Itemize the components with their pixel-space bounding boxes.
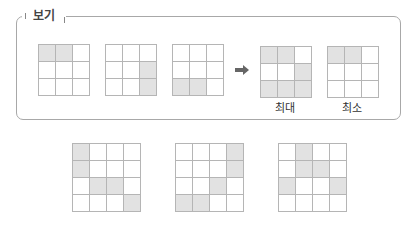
example-grid-2 bbox=[105, 44, 157, 96]
grid-cell bbox=[279, 195, 296, 212]
grid-cell bbox=[296, 178, 313, 195]
grid-cell bbox=[73, 79, 90, 96]
grid-cell bbox=[140, 45, 157, 62]
grid-cell bbox=[107, 195, 124, 212]
grid-cell bbox=[193, 144, 210, 161]
grid-cell bbox=[193, 161, 210, 178]
grid-cell bbox=[313, 144, 330, 161]
shaded-cell bbox=[261, 47, 278, 64]
grid-cell bbox=[295, 47, 312, 64]
shaded-cell bbox=[278, 47, 295, 64]
grid-cell bbox=[210, 144, 227, 161]
problem-grid-2 bbox=[175, 143, 244, 212]
grid-cell bbox=[123, 79, 140, 96]
grid-cell bbox=[73, 178, 90, 195]
result-grid-max bbox=[260, 46, 312, 98]
shaded-cell bbox=[193, 195, 210, 212]
example-grid-1 bbox=[38, 44, 90, 96]
grid-cell bbox=[176, 178, 193, 195]
problem-grid-3 bbox=[278, 143, 347, 212]
shaded-cell bbox=[227, 144, 244, 161]
example-title: 보기 bbox=[33, 9, 55, 23]
grid-cell bbox=[107, 144, 124, 161]
shaded-cell bbox=[176, 195, 193, 212]
grid-cell bbox=[313, 195, 330, 212]
result-label-max: 최대 bbox=[259, 102, 311, 115]
grid-cell bbox=[362, 81, 379, 98]
grid-cell bbox=[328, 81, 345, 98]
grid-cell bbox=[106, 45, 123, 62]
grid-cell bbox=[190, 62, 207, 79]
grid-cell bbox=[296, 195, 313, 212]
shaded-cell bbox=[56, 45, 73, 62]
grid-cell bbox=[261, 64, 278, 81]
grid-cell bbox=[106, 79, 123, 96]
grid-cell bbox=[173, 62, 190, 79]
arrow-right-icon bbox=[235, 65, 249, 75]
grid-cell bbox=[278, 64, 295, 81]
grid-cell bbox=[56, 79, 73, 96]
shaded-cell bbox=[330, 178, 347, 195]
shaded-cell bbox=[261, 81, 278, 98]
grid-cell bbox=[328, 64, 345, 81]
grid-cell bbox=[90, 144, 107, 161]
shaded-cell bbox=[296, 144, 313, 161]
shaded-cell bbox=[73, 144, 90, 161]
grid-cell bbox=[123, 45, 140, 62]
grid-cell bbox=[210, 195, 227, 212]
grid-cell bbox=[227, 178, 244, 195]
shaded-cell bbox=[210, 178, 227, 195]
grid-cell bbox=[279, 144, 296, 161]
shaded-cell bbox=[328, 47, 345, 64]
result-grid-min bbox=[327, 46, 379, 98]
grid-cell bbox=[124, 178, 141, 195]
grid-cell bbox=[207, 62, 224, 79]
shaded-cell bbox=[296, 161, 313, 178]
shaded-cell bbox=[173, 79, 190, 96]
grid-cell bbox=[176, 161, 193, 178]
shaded-cell bbox=[90, 178, 107, 195]
shaded-cell bbox=[345, 47, 362, 64]
grid-cell bbox=[106, 62, 123, 79]
shaded-cell bbox=[295, 64, 312, 81]
grid-cell bbox=[90, 195, 107, 212]
shaded-cell bbox=[107, 178, 124, 195]
shaded-cell bbox=[39, 45, 56, 62]
grid-cell bbox=[193, 178, 210, 195]
grid-cell bbox=[176, 144, 193, 161]
grid-cell bbox=[107, 161, 124, 178]
grid-cell bbox=[362, 64, 379, 81]
grid-cell bbox=[190, 45, 207, 62]
label-bracket-left bbox=[25, 13, 26, 19]
shaded-cell bbox=[190, 79, 207, 96]
grid-cell bbox=[207, 79, 224, 96]
shaded-cell bbox=[313, 161, 330, 178]
shaded-cell bbox=[124, 195, 141, 212]
grid-cell bbox=[73, 62, 90, 79]
shaded-cell bbox=[295, 81, 312, 98]
grid-cell bbox=[313, 178, 330, 195]
shaded-cell bbox=[227, 161, 244, 178]
label-bracket-right bbox=[64, 17, 65, 23]
shaded-cell bbox=[279, 178, 296, 195]
grid-cell bbox=[227, 195, 244, 212]
grid-cell bbox=[124, 144, 141, 161]
grid-cell bbox=[39, 79, 56, 96]
shaded-cell bbox=[140, 62, 157, 79]
grid-cell bbox=[123, 62, 140, 79]
grid-cell bbox=[207, 45, 224, 62]
grid-cell bbox=[39, 62, 56, 79]
grid-cell bbox=[330, 144, 347, 161]
grid-cell bbox=[173, 45, 190, 62]
grid-cell bbox=[73, 195, 90, 212]
grid-cell bbox=[210, 161, 227, 178]
grid-cell bbox=[124, 161, 141, 178]
grid-cell bbox=[330, 195, 347, 212]
grid-cell bbox=[73, 45, 90, 62]
shaded-cell bbox=[140, 79, 157, 96]
grid-cell bbox=[345, 64, 362, 81]
grid-cell bbox=[56, 62, 73, 79]
grid-cell bbox=[362, 47, 379, 64]
shaded-cell bbox=[73, 161, 90, 178]
shaded-cell bbox=[278, 81, 295, 98]
